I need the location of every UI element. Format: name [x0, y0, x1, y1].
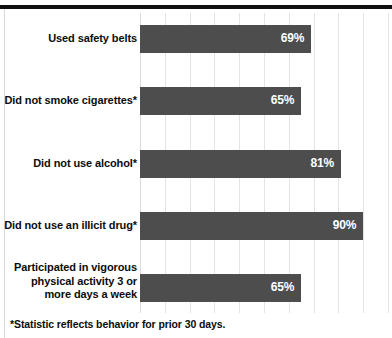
bar-category-label: Did not use alcohol*: [0, 157, 137, 171]
bar-value-label: 81%: [310, 156, 333, 170]
bar: 65%: [140, 274, 301, 302]
bar: 65%: [140, 87, 301, 115]
bar-category-label: Participated in vigorousphysical activit…: [0, 261, 137, 302]
bar-row: Used safety belts69%: [0, 25, 392, 53]
chart-footnote: *Statistic reflects behavior for prior 3…: [10, 318, 225, 330]
top-rule-divider: [0, 5, 392, 9]
bar-value-label: 65%: [271, 280, 294, 294]
bar-row: Did not use alcohol*81%: [0, 150, 392, 178]
bar-row: Did not smoke cigarettes*65%: [0, 87, 392, 115]
bar-value-label: 65%: [271, 93, 294, 107]
bar: 81%: [140, 150, 341, 178]
bar-value-label: 90%: [333, 218, 356, 232]
bar-chart-figure: Used safety belts69%Did not smoke cigare…: [0, 0, 392, 338]
bar-category-label: Used safety belts: [0, 32, 137, 46]
bar-row: Did not use an illicit drug*90%: [0, 212, 392, 240]
bar: 90%: [140, 212, 363, 240]
bar-category-label: Did not smoke cigarettes*: [0, 94, 137, 108]
bar-category-label: Did not use an illicit drug*: [0, 219, 137, 233]
bar-value-label: 69%: [281, 31, 304, 45]
bar-row: Participated in vigorousphysical activit…: [0, 274, 392, 302]
bar: 69%: [140, 25, 311, 53]
